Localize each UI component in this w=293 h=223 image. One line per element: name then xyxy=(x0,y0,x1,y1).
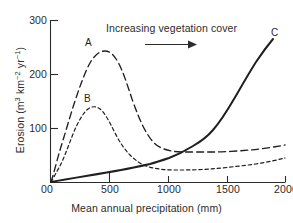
y-axis-label: Erosion (m3 km−2 yr−1) xyxy=(14,47,26,153)
x-tick-label-1000: 1000 xyxy=(151,183,187,195)
vegetation-arrow-head xyxy=(188,41,197,49)
y-axis-label-mid-1: km xyxy=(14,80,26,97)
curve-c xyxy=(51,39,273,182)
erosion-precipitation-chart: 300 200 100 0 0 500 1000 1500 2000 A B C… xyxy=(0,0,293,223)
y-axis-label-wrapper: Erosion (m3 km−2 yr−1) xyxy=(10,10,26,190)
curve-label-b: B xyxy=(84,93,91,104)
vegetation-cover-annotation: Increasing vegetation cover xyxy=(106,22,237,34)
y-axis-label-sup-3: −1 xyxy=(13,50,22,59)
x-tick-label-2000: 2000 xyxy=(268,183,293,195)
y-axis-label-sup-2: −2 xyxy=(13,71,22,80)
x-tick-label-0: 0 xyxy=(38,183,62,195)
x-axis-label: Mean annual precipitation (mm) xyxy=(0,202,293,214)
curve-label-a: A xyxy=(85,37,92,48)
y-axis-label-mid-2: yr xyxy=(14,59,26,71)
y-axis-label-suffix: ) xyxy=(14,47,26,51)
y-axis-label-sup-1: 3 xyxy=(13,97,22,101)
x-tick-label-1500: 1500 xyxy=(210,183,246,195)
y-axis-label-prefix: Erosion (m xyxy=(14,101,26,153)
curve-b xyxy=(51,107,285,182)
curve-label-c: C xyxy=(271,27,278,38)
x-tick-label-500: 500 xyxy=(94,183,126,195)
